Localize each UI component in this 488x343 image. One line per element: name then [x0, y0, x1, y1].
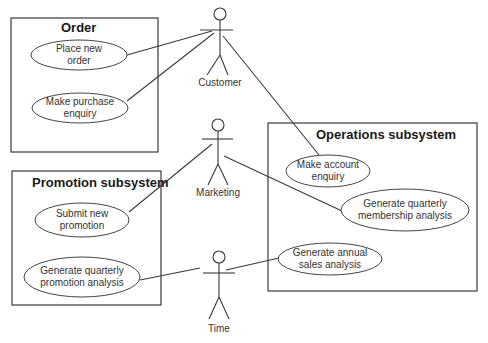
actor-time-icon: [203, 251, 235, 319]
use-case-label-line: Generate annual: [278, 247, 382, 259]
actor-customer-label: Customer: [190, 77, 250, 89]
use-case-label: Generate annual sales analysis: [278, 247, 382, 271]
order-subsystem-title: Order: [61, 20, 96, 35]
use-case-label-line: order: [31, 55, 127, 67]
use-case-label-line: enquiry: [286, 171, 370, 183]
use-case-label: Generate quarterly membership analysis: [341, 198, 469, 222]
actor-marketing-label: Marketing: [188, 187, 248, 199]
promotion-subsystem-title: Promotion subsystem: [32, 175, 169, 190]
operations-subsystem-title: Operations subsystem: [316, 127, 456, 142]
use-case-label: Submit new promotion: [35, 208, 129, 232]
use-case-label-line: promotion: [35, 220, 129, 232]
use-case-label-line: Make purchase: [32, 96, 128, 108]
use-case-label: Generate quarterly promotion analysis: [24, 265, 140, 289]
use-case-label: Make account enquiry: [286, 159, 370, 183]
use-case-label-line: Generate quarterly: [24, 265, 140, 277]
use-case-label-line: sales analysis: [278, 259, 382, 271]
use-case-label-line: Submit new: [35, 208, 129, 220]
assoc-time-promotion-analysis: [140, 268, 200, 280]
actor-marketing-icon: [202, 119, 233, 185]
use-case-label-line: enquiry: [32, 108, 128, 120]
use-case-label: Make purchase enquiry: [32, 96, 128, 120]
use-case-label: Place new order: [31, 43, 127, 67]
use-case-label-line: promotion analysis: [24, 277, 140, 289]
use-case-label-line: Generate quarterly: [341, 198, 469, 210]
use-case-label-line: membership analysis: [341, 210, 469, 222]
use-case-label-line: Make account: [286, 159, 370, 171]
assoc-customer-place-order: [127, 31, 212, 55]
actor-time-label: Time: [189, 323, 249, 335]
assoc-customer-account-enquiry: [223, 36, 319, 155]
use-case-label-line: Place new: [31, 43, 127, 55]
order-subsystem-box: [11, 18, 158, 152]
assoc-time-annual-sales: [226, 258, 279, 270]
